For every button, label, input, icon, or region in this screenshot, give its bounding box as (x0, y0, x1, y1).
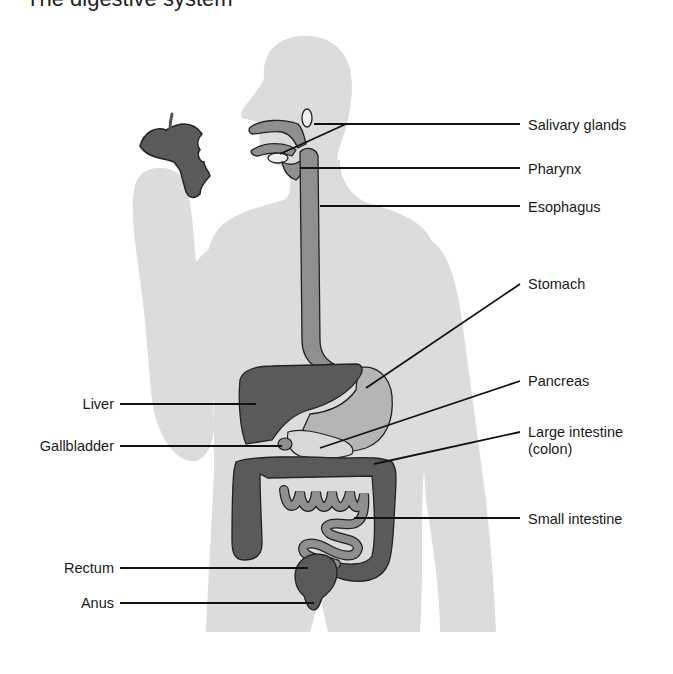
label-esophagus: Esophagus (528, 199, 601, 216)
label-gallbladder: Gallbladder (40, 438, 114, 455)
label-pharynx: Pharynx (528, 161, 581, 178)
label-liver: Liver (83, 396, 114, 413)
label-salivary-glands: Salivary glands (528, 117, 626, 134)
label-rectum: Rectum (64, 560, 114, 577)
label-anus: Anus (81, 595, 114, 612)
label-large-intestine-colon: (colon) (528, 441, 572, 458)
label-small-intestine: Small intestine (528, 511, 622, 528)
label-pancreas: Pancreas (528, 373, 589, 390)
label-stomach: Stomach (528, 276, 585, 293)
gallbladder-shape (278, 438, 292, 450)
label-large-intestine: Large intestine (528, 424, 623, 441)
